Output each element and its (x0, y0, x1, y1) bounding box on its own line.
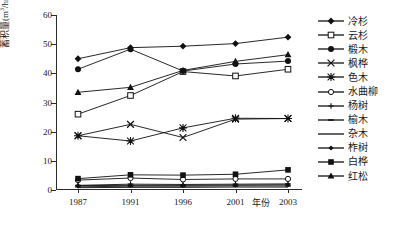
data-point-open-square (75, 111, 81, 117)
data-point-filled-diamond (180, 43, 187, 50)
data-point-open-circle (285, 176, 290, 181)
x-tick-label: 2001 (227, 197, 245, 207)
x-axis-label: 年份 (252, 196, 270, 209)
legend-label: 枫桦 (348, 58, 368, 69)
data-point-filled-square (285, 167, 291, 173)
data-point-filled-square (128, 172, 134, 178)
data-point-open-circle (328, 89, 333, 94)
legend-marker-icon (316, 85, 346, 99)
data-point-x-cross (180, 134, 187, 141)
chart-legend: 冷杉云杉椴木枫桦色木水曲柳杨树榆木杂木柞树白桦红松 (316, 14, 406, 183)
legend-label: 杨树 (348, 100, 368, 111)
legend-item-白桦[interactable]: 白桦 (316, 155, 406, 169)
series-1 (75, 66, 291, 117)
legend-item-冷杉[interactable]: 冷杉 (316, 14, 406, 28)
legend-marker-icon (316, 169, 346, 183)
data-point-open-square (128, 93, 134, 99)
data-point-filled-diamond-sm (328, 145, 333, 150)
legend-item-杨树[interactable]: 杨树 (316, 99, 406, 113)
legend-label: 冷杉 (348, 16, 368, 27)
legend-marker-icon (316, 42, 346, 56)
y-tick-label: 50 (43, 40, 52, 49)
data-point-asterisk (74, 132, 82, 140)
y-tick-label: 0 (48, 186, 53, 195)
legend-label: 椴木 (348, 44, 368, 55)
data-point-filled-square (75, 176, 81, 182)
legend-item-榆木[interactable]: 榆木 (316, 113, 406, 127)
x-tick-label: 1996 (174, 197, 192, 207)
data-point-filled-circle (285, 58, 291, 64)
data-point-filled-diamond (328, 18, 335, 25)
data-point-asterisk (127, 137, 135, 145)
data-point-open-square (328, 32, 334, 38)
data-point-asterisk (327, 73, 335, 81)
legend-marker-icon (316, 99, 346, 113)
legend-item-枫桦[interactable]: 枫桦 (316, 56, 406, 70)
data-point-x-cross (127, 121, 134, 128)
legend-item-杂木[interactable]: 杂木 (316, 127, 406, 141)
legend-label: 榆木 (348, 114, 368, 125)
legend-item-水曲柳[interactable]: 水曲柳 (316, 84, 406, 98)
series-lines (56, 15, 302, 190)
data-point-open-square (233, 73, 239, 79)
legend-label: 柞树 (348, 142, 368, 153)
data-point-filled-square (233, 171, 239, 177)
data-point-filled-circle (75, 66, 81, 72)
data-point-filled-circle (128, 46, 134, 52)
legend-label: 色木 (348, 72, 368, 83)
legend-item-云杉[interactable]: 云杉 (316, 28, 406, 42)
legend-marker-icon (316, 28, 346, 42)
y-tick-label: 30 (43, 98, 52, 107)
plot-area: 0102030405060 19871991199620012003 (56, 15, 302, 190)
legend-marker-icon (316, 14, 346, 28)
legend-marker-icon (316, 113, 346, 127)
y-tick-label: 40 (43, 69, 52, 78)
legend-item-椴木[interactable]: 椴木 (316, 42, 406, 56)
legend-label: 云杉 (348, 30, 368, 41)
y-tick-label: 60 (43, 11, 52, 20)
legend-label: 红松 (348, 171, 368, 182)
data-point-filled-square (328, 159, 334, 165)
legend-item-色木[interactable]: 色木 (316, 70, 406, 84)
legend-marker-icon (316, 56, 346, 70)
legend-item-柞树[interactable]: 柞树 (316, 141, 406, 155)
legend-item-红松[interactable]: 红松 (316, 169, 406, 183)
y-axis-label: 蓄积量(m3/hm2) (0, 0, 11, 48)
legend-label: 白桦 (348, 156, 368, 167)
legend-label: 水曲柳 (348, 86, 378, 97)
data-point-filled-triangle (285, 51, 292, 57)
legend-marker-icon (316, 155, 346, 169)
legend-label: 杂木 (348, 128, 368, 139)
legend-marker-icon (316, 141, 346, 155)
data-point-open-circle (233, 176, 238, 181)
legend-marker-icon (316, 70, 346, 84)
data-point-open-square (285, 66, 291, 72)
data-point-filled-diamond (285, 34, 292, 41)
data-point-filled-square (180, 172, 186, 178)
x-tick-label: 2003 (279, 197, 297, 207)
x-tick-label: 1987 (69, 197, 87, 207)
data-point-plus (328, 103, 334, 109)
data-point-filled-diamond (75, 55, 82, 62)
chart-root: 0102030405060 19871991199620012003 蓄积量(m… (0, 0, 408, 242)
x-tick-label: 1991 (122, 197, 140, 207)
data-point-asterisk (179, 124, 187, 132)
y-tick-label: 20 (43, 127, 52, 136)
y-tick-label: 10 (43, 156, 52, 165)
data-point-filled-circle (328, 46, 334, 52)
data-point-filled-diamond (232, 40, 239, 47)
legend-marker-icon (316, 127, 346, 141)
data-point-asterisk (284, 115, 292, 123)
data-point-asterisk (232, 114, 240, 122)
